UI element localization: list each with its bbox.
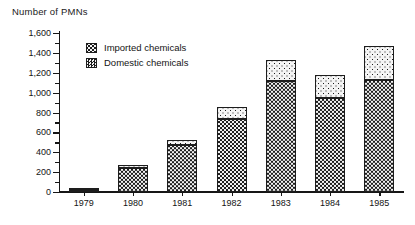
bar-1984[interactable] [315, 75, 345, 192]
bar-segment-domestic[interactable] [315, 98, 345, 192]
y-axis-tick-label: 1,000 [28, 88, 51, 97]
x-axis-tick [84, 192, 85, 196]
legend-label-imported: Imported chemicals [104, 43, 186, 53]
bar-segment-imported[interactable] [217, 107, 247, 119]
y-axis-tick-label: 1,600 [28, 29, 51, 38]
y-axis-tick-label: 1,200 [28, 68, 51, 77]
chart-title: Number of PMNs [12, 6, 88, 17]
tick-mark [55, 142, 59, 143]
bar-1981[interactable] [167, 140, 197, 192]
tick-mark [55, 122, 59, 123]
x-axis-tick [182, 192, 183, 196]
tick-mark [53, 73, 59, 74]
tick-mark [53, 93, 59, 94]
x-axis-label-1984: 1984 [320, 199, 340, 208]
legend-item-domestic: Domestic chemicals [86, 58, 188, 68]
tick-mark [53, 53, 59, 54]
y-axis-tick-label: 200 [36, 168, 51, 177]
x-axis-tick [281, 192, 282, 196]
imported-swatch-icon [86, 43, 97, 53]
x-axis-label-1985: 1985 [369, 199, 389, 208]
legend-item-imported: Imported chemicals [86, 43, 188, 53]
chart-legend: Imported chemicals Domestic chemicals [86, 43, 188, 73]
x-axis-label-1981: 1981 [172, 199, 192, 208]
bar-segment-imported[interactable] [364, 46, 394, 80]
x-axis-label-1980: 1980 [123, 199, 143, 208]
bar-segment-domestic[interactable] [217, 119, 247, 192]
x-axis-label-1982: 1982 [221, 199, 241, 208]
tick-mark [55, 182, 59, 183]
legend-label-domestic: Domestic chemicals [104, 58, 188, 68]
bar-segment-imported[interactable] [167, 140, 197, 145]
bar-segment-imported[interactable] [266, 60, 296, 81]
y-axis-tick-label: 0 [46, 188, 51, 197]
x-axis-label-1983: 1983 [271, 199, 291, 208]
bar-segment-domestic[interactable] [364, 80, 394, 192]
bar-segment-imported[interactable] [315, 75, 345, 98]
tick-mark [53, 172, 59, 173]
bar-1980[interactable] [118, 165, 148, 192]
tick-mark [53, 192, 59, 193]
x-axis-tick [330, 192, 331, 196]
y-axis-tick-label: 1,400 [28, 48, 51, 57]
pmn-bar-chart: Number of PMNs 02004006008001,0001,2001,… [0, 0, 415, 225]
bar-1983[interactable] [266, 60, 296, 192]
tick-mark [53, 113, 59, 114]
x-axis-label-1979: 1979 [74, 199, 94, 208]
tick-mark [53, 132, 59, 133]
bar-1982[interactable] [217, 107, 247, 192]
bar-segment-domestic[interactable] [118, 168, 148, 192]
tick-mark [53, 152, 59, 153]
x-axis-tick [379, 192, 380, 196]
bar-1985[interactable] [364, 46, 394, 192]
bar-segment-domestic[interactable] [167, 145, 197, 192]
tick-mark [55, 103, 59, 104]
bar-segment-imported[interactable] [118, 165, 148, 168]
bar-segment-imported[interactable] [69, 188, 99, 190]
tick-mark [53, 33, 59, 34]
y-axis-tick-label: 800 [36, 108, 51, 117]
y-axis-tick-label: 600 [36, 128, 51, 137]
tick-mark [55, 43, 59, 44]
tick-mark [55, 83, 59, 84]
tick-mark [55, 63, 59, 64]
x-axis-tick [133, 192, 134, 196]
domestic-swatch-icon [86, 58, 97, 68]
tick-mark [55, 162, 59, 163]
bar-segment-domestic[interactable] [266, 81, 296, 192]
y-axis-tick-label: 400 [36, 148, 51, 157]
x-axis-tick [232, 192, 233, 196]
